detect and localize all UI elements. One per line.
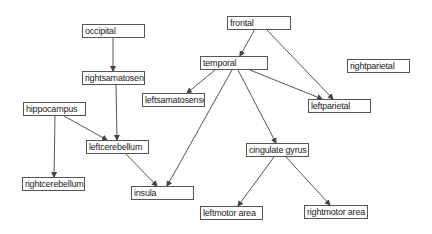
node-leftsamatosenso[interactable]: leftsamatosenso xyxy=(142,93,205,107)
node-occipital[interactable]: occipital xyxy=(82,24,145,38)
node-insula[interactable]: insula xyxy=(131,186,194,200)
node-frontal[interactable]: frontal xyxy=(227,16,291,30)
edge-temporal-to-leftsamatosenso xyxy=(187,70,215,93)
node-cingulategyrus[interactable]: cingulate gyrus xyxy=(246,143,309,157)
node-hippocampus[interactable]: hippocampus xyxy=(23,102,86,116)
node-rightparietal[interactable]: rightparietal xyxy=(347,59,410,73)
edge-temporal-to-insula xyxy=(167,70,232,186)
node-rightmotorarea[interactable]: rightmotor area xyxy=(304,205,368,219)
edges-layer xyxy=(0,0,432,234)
edge-hippocampus-to-leftcerebellum xyxy=(64,116,107,140)
node-rightsamatosens[interactable]: rightsamatosens xyxy=(82,71,145,85)
node-rightcerebellum[interactable]: rightcerebellum xyxy=(22,177,85,191)
edge-cingulategyrus-to-rightmotorarea xyxy=(286,157,330,205)
edge-hippocampus-to-rightcerebellum xyxy=(54,116,55,177)
edge-leftcerebellum-to-insula xyxy=(125,153,157,186)
node-leftmotorarea[interactable]: leftmotor area xyxy=(200,206,263,220)
edge-temporal-to-leftparietal xyxy=(250,70,322,99)
node-temporal[interactable]: temporal xyxy=(200,56,268,70)
node-leftparietal[interactable]: leftparietal xyxy=(308,99,371,113)
edge-cingulategyrus-to-leftmotorarea xyxy=(238,157,274,206)
edge-rightsamatosens-to-leftcerebellum xyxy=(116,85,117,140)
edge-frontal-to-temporal xyxy=(240,29,255,56)
node-leftcerebellum[interactable]: leftcerebellum xyxy=(86,140,149,154)
edge-frontal-to-leftparietal xyxy=(266,29,333,99)
edge-temporal-to-cingulategyrus xyxy=(238,70,276,143)
